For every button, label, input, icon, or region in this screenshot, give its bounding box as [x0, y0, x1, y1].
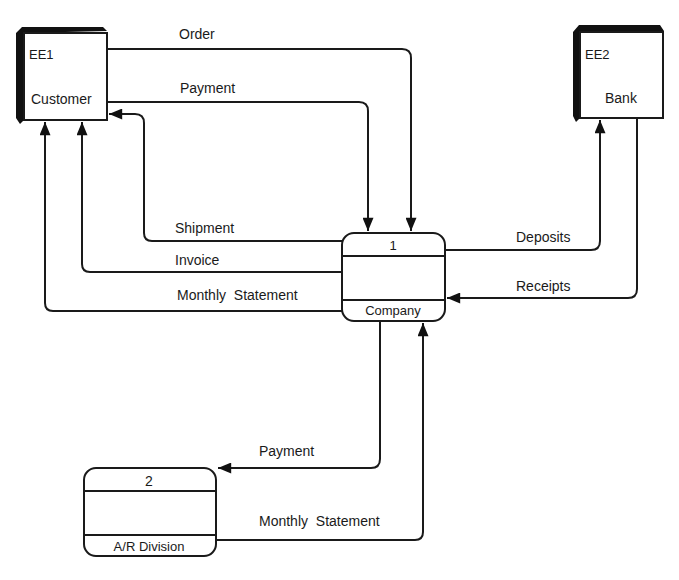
dfd-canvas: EE1 Customer EE2 Bank 1 Company 2 A/R Di… — [0, 0, 679, 580]
flow-monthly-statement-to-customer[interactable]: Monthly Statement — [45, 122, 342, 311]
process-id: 2 — [145, 473, 153, 489]
process-label: Company — [365, 303, 421, 318]
process-id: 1 — [389, 238, 396, 253]
external-entity-bank[interactable]: EE2 Bank — [573, 25, 664, 122]
entity-id: EE1 — [29, 47, 54, 62]
process-ar-division[interactable]: 2 A/R Division — [84, 468, 216, 556]
flow-label: Invoice — [175, 252, 220, 268]
flow-order[interactable]: Order — [107, 26, 411, 231]
flow-shipment[interactable]: Shipment — [109, 114, 342, 241]
flow-arrow — [82, 122, 342, 272]
flow-label: Monthly Statement — [177, 287, 298, 303]
process-label: A/R Division — [114, 539, 185, 554]
process-company[interactable]: 1 Company — [342, 233, 445, 321]
entity-label: Customer — [31, 91, 92, 107]
flow-invoice[interactable]: Invoice — [82, 122, 342, 272]
flow-arrow — [107, 102, 368, 231]
flow-label: Monthly Statement — [259, 513, 380, 529]
flow-deposits[interactable]: Deposits — [445, 120, 600, 250]
flow-label: Payment — [259, 443, 314, 459]
flow-label: Payment — [180, 80, 235, 96]
external-entity-customer[interactable]: EE1 Customer — [16, 27, 107, 124]
flow-arrow — [216, 323, 423, 540]
flow-arrow — [107, 49, 411, 231]
flow-payment-to-ar[interactable]: Payment — [218, 321, 380, 468]
flow-label: Order — [179, 26, 215, 42]
entity-label: Bank — [605, 90, 638, 106]
flow-payment-to-company[interactable]: Payment — [107, 80, 368, 231]
entity-id: EE2 — [585, 47, 610, 62]
flow-arrow — [447, 118, 637, 298]
flow-monthly-statement-to-company[interactable]: Monthly Statement — [216, 323, 423, 540]
flow-arrow — [45, 122, 342, 311]
flow-label: Deposits — [516, 229, 570, 245]
flow-label: Shipment — [175, 220, 234, 236]
flow-receipts[interactable]: Receipts — [447, 118, 637, 298]
flow-label: Receipts — [516, 278, 570, 294]
